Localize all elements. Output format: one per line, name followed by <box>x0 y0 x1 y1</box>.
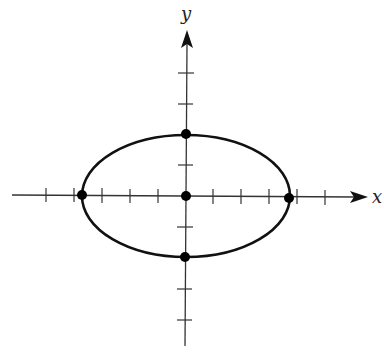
top-co-vertex-point <box>181 129 191 139</box>
x-axis: x <box>12 186 382 207</box>
bottom-co-vertex-point <box>180 252 190 262</box>
center-point <box>181 191 191 201</box>
right-vertex-point <box>284 193 294 203</box>
y-axis-label: y <box>180 3 192 24</box>
y-axis: y <box>177 3 194 346</box>
diagram-canvas: x y <box>0 0 384 353</box>
ellipse-diagram: x y <box>0 0 384 353</box>
x-axis-label: x <box>372 186 382 207</box>
left-vertex-point <box>77 190 87 200</box>
